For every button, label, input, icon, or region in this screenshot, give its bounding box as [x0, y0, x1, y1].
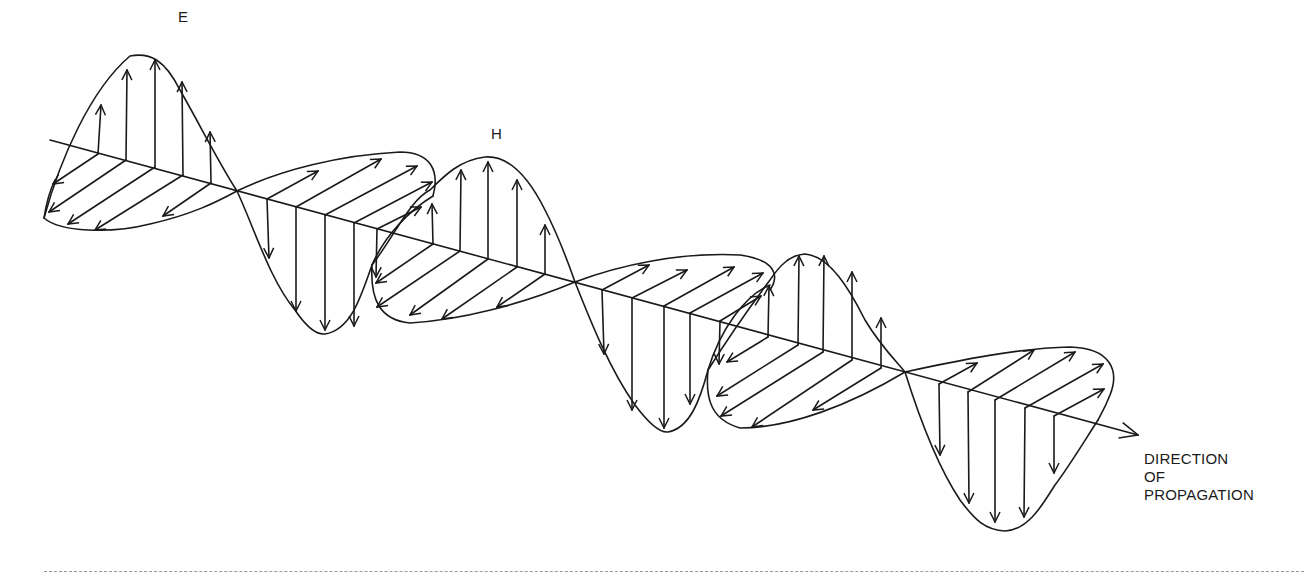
- direction-label-line-1: DIRECTION: [1144, 450, 1254, 468]
- h-field-arrows-5: [717, 337, 881, 427]
- h-field-lobe-1: [44, 180, 237, 230]
- e-field-arrows-2: [267, 199, 377, 330]
- direction-label-line-3: PROPAGATION: [1144, 486, 1254, 504]
- e-field-lobe-2: [237, 191, 433, 334]
- h-field-lobe-2: [237, 152, 435, 196]
- h-field-label: H: [491, 125, 502, 143]
- e-field-arrows-5: [768, 256, 881, 368]
- direction-label-line-2: OF: [1144, 468, 1254, 486]
- e-field-label: E: [178, 8, 188, 26]
- e-field-lobe-1: [44, 55, 237, 218]
- direction-of-propagation-label: DIRECTION OF PROPAGATION: [1144, 450, 1254, 504]
- e-field-arrows-6: [939, 384, 1054, 522]
- e-field-arrows-1: [98, 60, 211, 183]
- e-field-arrows-4: [602, 290, 720, 428]
- h-field-lobe-4: [575, 255, 775, 290]
- e-field-lobe-4: [575, 282, 770, 432]
- h-field-arrows-4: [602, 265, 763, 321]
- h-field-arrows-3: [432, 162, 545, 274]
- h-field-arrows-1: [49, 154, 211, 230]
- h-field-lobe-6: [905, 347, 1114, 420]
- propagation-axis: [50, 140, 1138, 435]
- h-field-lobe-5: [707, 370, 905, 428]
- e-field-arrows-3: [376, 244, 545, 319]
